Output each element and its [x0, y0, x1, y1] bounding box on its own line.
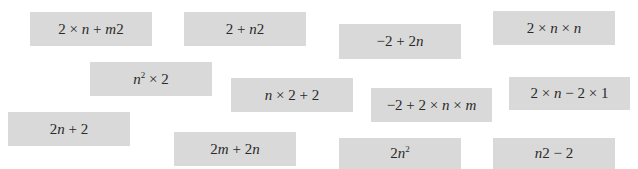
expression-card[interactable]: 2 + n2 — [184, 12, 306, 46]
expression-card[interactable]: n2 − 2 — [493, 138, 615, 169]
expression-text: 2m + 2n — [210, 141, 259, 158]
expression-card[interactable]: 2n2 — [339, 138, 461, 169]
expression-text: −2 + 2 × n × m — [387, 97, 477, 114]
expression-text: 2 × n + m2 — [58, 21, 123, 38]
expression-text: 2 × n − 2 × 1 — [531, 85, 609, 102]
expression-card[interactable]: n2 × 2 — [90, 62, 212, 96]
expression-card[interactable]: 2 × n − 2 × 1 — [509, 77, 630, 110]
expression-text: n × 2 + 2 — [265, 87, 319, 104]
expression-text: 2n + 2 — [50, 121, 88, 138]
expression-card[interactable]: 2 × n × n — [493, 11, 615, 45]
expression-card[interactable]: −2 + 2n — [339, 24, 461, 59]
expression-text: n2 × 2 — [133, 71, 168, 88]
expression-card-board: 2 × n + m2 2 + n2 −2 + 2n 2 × n × n n2 ×… — [0, 0, 638, 169]
expression-text: 2 + n2 — [226, 21, 264, 38]
expression-card[interactable]: 2n + 2 — [8, 112, 130, 146]
expression-card[interactable]: n × 2 + 2 — [231, 78, 353, 112]
expression-card[interactable]: 2m + 2n — [174, 132, 296, 166]
expression-card[interactable]: 2 × n + m2 — [30, 12, 152, 46]
expression-text: 2n2 — [390, 145, 410, 162]
expression-text: −2 + 2n — [377, 33, 424, 50]
expression-card[interactable]: −2 + 2 × n × m — [371, 88, 492, 122]
expression-text: n2 − 2 — [535, 145, 573, 162]
expression-text: 2 × n × n — [527, 20, 581, 37]
